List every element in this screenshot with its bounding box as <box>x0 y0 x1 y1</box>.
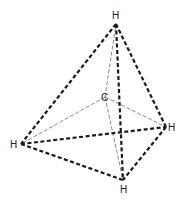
edge-top-right <box>116 24 166 127</box>
hydrogen-label-bottom: H <box>120 184 127 195</box>
bond-center-left <box>21 97 105 144</box>
edge-top-left <box>21 24 116 144</box>
edge-right-bottom <box>123 127 166 180</box>
atom-labels: C H H H H <box>10 10 175 195</box>
methane-tetrahedron-diagram: C H H H H <box>0 0 194 207</box>
hydrogen-label-left: H <box>10 139 17 150</box>
bond-lines <box>21 24 166 180</box>
edge-left-right <box>21 127 166 144</box>
tetrahedron-edges <box>21 24 166 180</box>
edge-left-bottom <box>21 144 123 180</box>
hydrogen-label-right: H <box>168 122 175 133</box>
edge-top-bottom <box>116 24 123 180</box>
carbon-label: C <box>101 92 108 103</box>
bond-center-right <box>105 97 166 127</box>
hydrogen-label-top: H <box>112 10 119 21</box>
